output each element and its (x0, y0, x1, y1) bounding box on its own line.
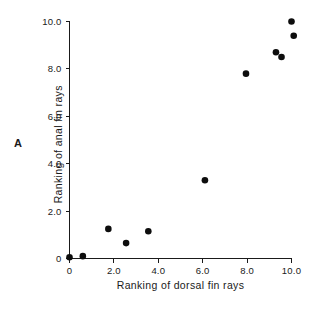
data-point-marker (123, 240, 130, 247)
x-tick-label: 8.0 (240, 265, 254, 276)
plot-area: 02.04.06.08.010.0 02.04.06.08.010.0 (0, 0, 322, 311)
data-point-marker (243, 70, 250, 77)
data-point-marker (145, 228, 152, 235)
y-tick-label: 8.0 (48, 63, 62, 74)
data-point-marker (288, 18, 295, 25)
x-tick-label: 0 (67, 265, 72, 276)
data-point-marker (202, 177, 209, 184)
y-tick-label: 6.0 (48, 111, 62, 122)
x-axis-ticks: 02.04.06.08.010.0 (67, 259, 301, 276)
data-point-marker (105, 226, 112, 233)
x-tick-label: 2.0 (107, 265, 121, 276)
y-tick-label: 10.0 (42, 16, 61, 27)
data-points-group (66, 18, 297, 260)
data-point-marker (278, 54, 285, 61)
data-point-marker (66, 254, 73, 261)
data-point-marker (290, 32, 297, 39)
x-tick-label: 6.0 (196, 265, 210, 276)
y-tick-label: 4.0 (48, 158, 62, 169)
scatter-plot-figure: A Ranking of anal fin rays Ranking of do… (0, 0, 322, 311)
x-tick-label: 10.0 (282, 265, 301, 276)
data-point-marker (80, 253, 87, 260)
y-tick-label: 2.0 (48, 206, 62, 217)
axes-group (70, 22, 292, 259)
x-tick-label: 4.0 (151, 265, 165, 276)
y-tick-label: 0 (56, 253, 61, 264)
y-axis-ticks: 02.04.06.08.010.0 (42, 16, 69, 264)
data-point-marker (273, 49, 280, 56)
